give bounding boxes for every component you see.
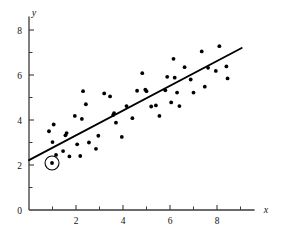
data-point (165, 75, 169, 79)
data-point (172, 57, 176, 61)
y-tick-label: 0 (17, 206, 22, 216)
data-point (51, 140, 55, 144)
data-point (73, 114, 77, 118)
data-point (135, 89, 139, 93)
data-point (81, 89, 85, 93)
data-point (158, 114, 162, 118)
data-point (145, 89, 149, 93)
data-point (114, 121, 118, 125)
data-point (173, 76, 177, 80)
scatter-plot-figure: 246802468 x y (0, 0, 284, 230)
data-point (200, 49, 204, 53)
data-point (61, 149, 65, 153)
data-point (75, 142, 79, 146)
data-point (226, 76, 230, 80)
data-point (65, 131, 69, 135)
y-tick-label: 6 (17, 71, 22, 81)
data-point (78, 154, 82, 158)
data-point (214, 69, 218, 73)
x-tick-label: 2 (74, 216, 79, 226)
data-point (52, 123, 56, 127)
data-point (102, 92, 106, 96)
data-point (50, 161, 54, 165)
data-point (68, 155, 72, 159)
data-point (108, 94, 112, 98)
data-point (84, 102, 88, 106)
data-points (47, 44, 229, 165)
tick-labels: 246802468 (17, 26, 219, 227)
regression-line (29, 48, 242, 160)
data-point (154, 103, 158, 107)
data-point (87, 141, 91, 145)
data-point (125, 104, 129, 108)
x-axis-label: x (263, 204, 269, 215)
data-point (120, 135, 124, 139)
data-point (80, 117, 84, 121)
data-point (203, 85, 207, 89)
data-point (169, 101, 173, 105)
data-point (225, 65, 229, 69)
y-axis-label: y (31, 7, 37, 18)
data-point (131, 116, 135, 120)
plot-canvas: 246802468 x y (0, 0, 284, 230)
data-point (149, 105, 153, 109)
x-tick-label: 4 (121, 216, 126, 226)
data-point (217, 44, 221, 48)
data-point (96, 134, 100, 138)
data-point (47, 129, 51, 133)
data-point (192, 91, 196, 95)
y-tick-label: 2 (17, 161, 22, 171)
y-tick-label: 4 (17, 116, 22, 126)
data-point (189, 78, 193, 82)
data-point (112, 111, 116, 115)
data-point (140, 71, 144, 75)
data-point (206, 66, 210, 70)
data-point (94, 147, 98, 151)
fit-line (29, 48, 242, 160)
tick-marks (29, 30, 241, 210)
data-point (163, 88, 167, 92)
data-point (183, 65, 187, 69)
x-tick-label: 8 (215, 216, 220, 226)
x-tick-label: 6 (168, 216, 173, 226)
y-tick-label: 8 (17, 26, 22, 36)
data-point (178, 104, 182, 108)
data-point (175, 91, 179, 95)
